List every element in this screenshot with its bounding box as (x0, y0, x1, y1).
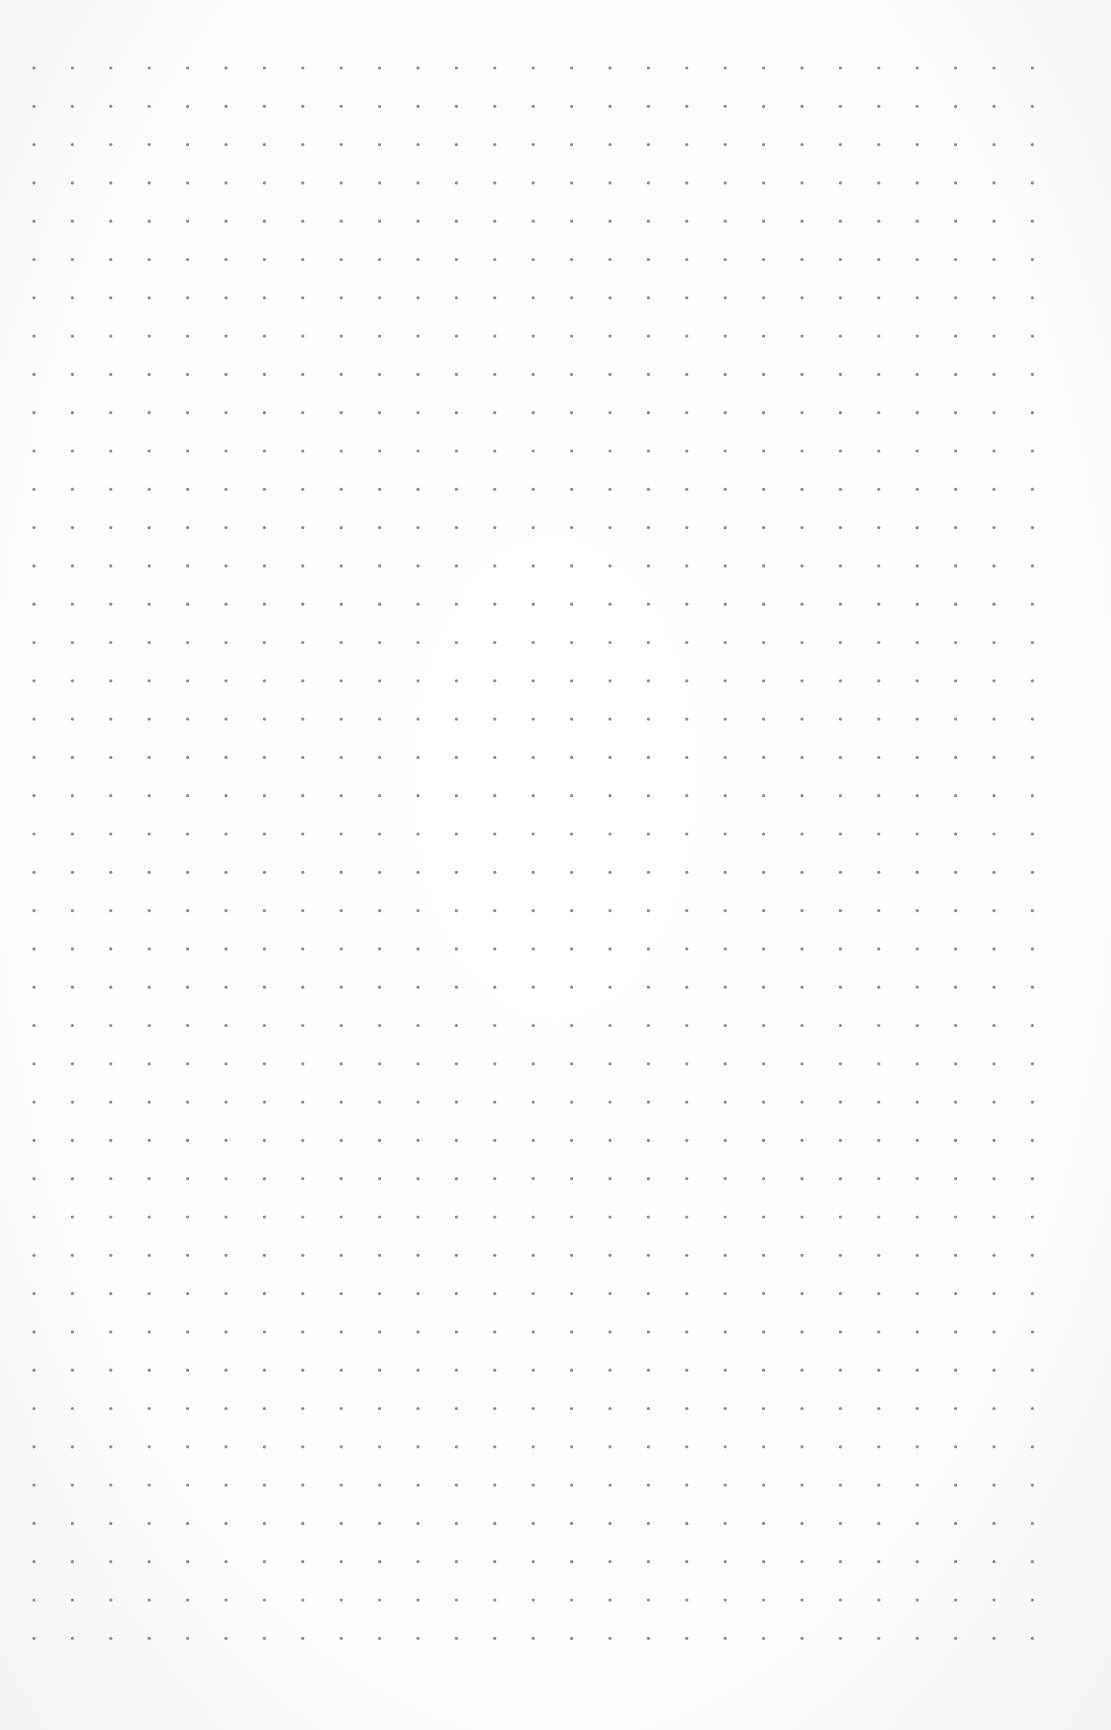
grid-dot (608, 1445, 611, 1448)
grid-dot (685, 1484, 688, 1487)
grid-dot (916, 488, 919, 491)
grid-dot (800, 1024, 803, 1027)
grid-dot (532, 449, 535, 452)
grid-dot (186, 526, 189, 529)
grid-dot (570, 1560, 573, 1563)
grid-dot (954, 411, 957, 414)
grid-dot (570, 1522, 573, 1525)
grid-dot (493, 296, 496, 299)
grid-dot (455, 603, 458, 606)
grid-dot (71, 449, 74, 452)
grid-dot (992, 603, 995, 606)
grid-dot (954, 909, 957, 912)
grid-dot (301, 449, 304, 452)
grid-dot (109, 1254, 112, 1257)
grid-dot (224, 1445, 227, 1448)
grid-dot (608, 373, 611, 376)
grid-dot (570, 986, 573, 989)
grid-dot (340, 373, 343, 376)
grid-dot (224, 947, 227, 950)
grid-dot (224, 526, 227, 529)
grid-dot (148, 488, 151, 491)
grid-dot (148, 449, 151, 452)
grid-dot (839, 1139, 842, 1142)
grid-dot (992, 794, 995, 797)
grid-dot (877, 1560, 880, 1563)
grid-dot (685, 1254, 688, 1257)
grid-dot (455, 1101, 458, 1104)
grid-dot (109, 1560, 112, 1563)
grid-dot (148, 871, 151, 874)
grid-dot (877, 143, 880, 146)
grid-dot (301, 1560, 304, 1563)
grid-dot (263, 909, 266, 912)
grid-dot (109, 1177, 112, 1180)
grid-dot (301, 1369, 304, 1372)
grid-dot (340, 488, 343, 491)
grid-dot (32, 641, 35, 644)
grid-dot (685, 603, 688, 606)
grid-dot (378, 794, 381, 797)
grid-dot (71, 105, 74, 108)
grid-dot (1031, 373, 1034, 376)
grid-dot (762, 1407, 765, 1410)
grid-dot (532, 373, 535, 376)
grid-dot (877, 449, 880, 452)
grid-dot (1031, 526, 1034, 529)
grid-dot (1031, 1407, 1034, 1410)
grid-dot (724, 1177, 727, 1180)
grid-dot (378, 986, 381, 989)
grid-dot (148, 564, 151, 567)
grid-dot (148, 105, 151, 108)
grid-dot (608, 488, 611, 491)
grid-dot (71, 986, 74, 989)
grid-dot (148, 1598, 151, 1601)
grid-dot (685, 1292, 688, 1295)
grid-dot (685, 411, 688, 414)
grid-dot (992, 564, 995, 567)
grid-dot (416, 143, 419, 146)
grid-dot (340, 718, 343, 721)
grid-dot (109, 373, 112, 376)
grid-dot (916, 1024, 919, 1027)
grid-dot (263, 66, 266, 69)
grid-dot (877, 1330, 880, 1333)
grid-dot (455, 1215, 458, 1218)
grid-dot (340, 871, 343, 874)
grid-dot (186, 1560, 189, 1563)
grid-dot (800, 1407, 803, 1410)
grid-dot (340, 526, 343, 529)
grid-dot (724, 1101, 727, 1104)
grid-dot (532, 986, 535, 989)
grid-dot (263, 1560, 266, 1563)
grid-dot (647, 181, 650, 184)
grid-dot (608, 296, 611, 299)
grid-dot (71, 1062, 74, 1065)
grid-dot (877, 1522, 880, 1525)
grid-dot (532, 220, 535, 223)
grid-dot (532, 1139, 535, 1142)
grid-dot (532, 832, 535, 835)
grid-dot (263, 258, 266, 261)
grid-dot (800, 1598, 803, 1601)
grid-dot (954, 1445, 957, 1448)
grid-dot (570, 794, 573, 797)
grid-dot (954, 1330, 957, 1333)
grid-dot (916, 1330, 919, 1333)
grid-dot (532, 296, 535, 299)
grid-dot (493, 1598, 496, 1601)
grid-dot (570, 756, 573, 759)
grid-dot (992, 1101, 995, 1104)
grid-dot (685, 1369, 688, 1372)
grid-dot (455, 1177, 458, 1180)
grid-dot (148, 373, 151, 376)
grid-dot (992, 1139, 995, 1142)
grid-dot (109, 181, 112, 184)
grid-dot (916, 641, 919, 644)
grid-dot (378, 641, 381, 644)
grid-dot (263, 1177, 266, 1180)
grid-dot (916, 756, 919, 759)
grid-dot (340, 258, 343, 261)
grid-dot (570, 1637, 573, 1640)
grid-dot (570, 1292, 573, 1295)
